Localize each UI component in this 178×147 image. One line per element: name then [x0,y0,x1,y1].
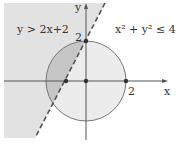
label-line-inequality: y > 2x+2 [16,23,69,36]
tick-x-2: 2 [128,85,135,98]
point-2-0 [124,79,128,83]
inequality-diagram: y > 2x+2 x² + y² ≤ 4 2 2 x y [0,0,178,147]
y-axis-label: y [74,1,82,14]
point-origin [84,79,88,83]
point-neg1-0 [64,79,68,83]
tick-y-2: 2 [75,31,82,44]
point-0-2 [84,39,88,43]
label-circle-inequality: x² + y² ≤ 4 [115,23,176,36]
x-axis-arrow-icon [162,79,168,83]
x-axis-label: x [164,85,171,98]
